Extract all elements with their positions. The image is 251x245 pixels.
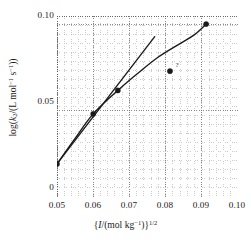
plot-area: ? [57,16,238,197]
y-axis-label: log(k2/(L mol−1 s−1)) [7,23,18,173]
x-axis-label: {I/(mol kg−1)}1/2 [0,219,251,230]
y-tick-label-0.05: 0.05 [20,97,54,106]
x-tick-label-0.08: 0.08 [145,201,185,210]
x-tick-label-0.06: 0.06 [73,201,113,210]
chart-figure: 0.10 0.05 0 0.05 0.06 0.07 0.08 0.09 0.1… [0,0,251,245]
x-axis-tick-labels: 0.05 0.06 0.07 0.08 0.09 0.10 [0,201,251,215]
data-layer [57,16,238,197]
y-tick-label-0.10: 0.10 [20,11,54,20]
x-tick-label-0.10: 0.10 [217,201,251,210]
x-tick-label-0.09: 0.09 [181,201,221,210]
x-tick-label-0.07: 0.07 [109,201,149,210]
y-tick-label-0: 0 [20,183,54,192]
outlier-query-annotation: ? [176,62,179,69]
x-tick-label-0.05: 0.05 [37,201,77,210]
